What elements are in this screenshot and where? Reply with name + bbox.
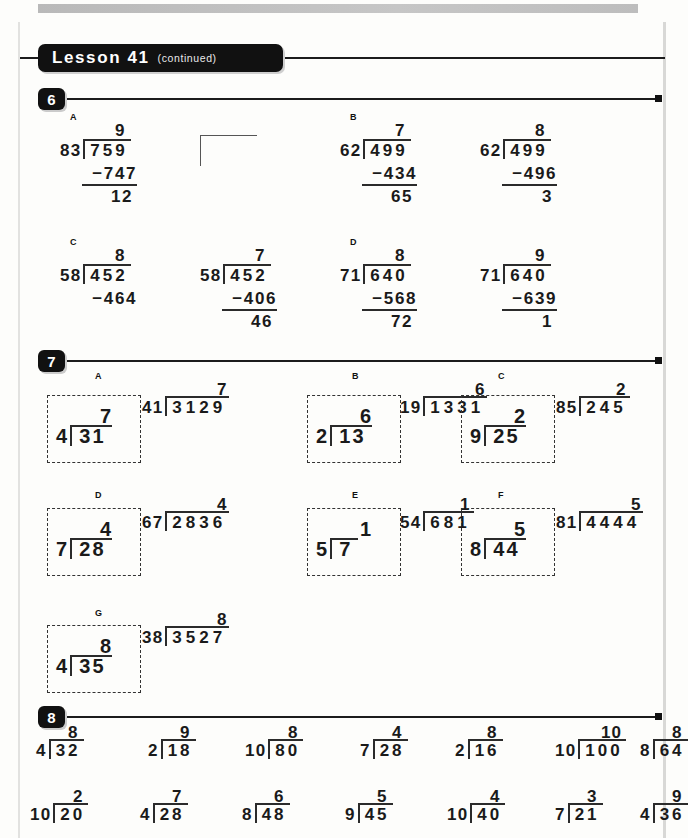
divisor: 10 (245, 741, 268, 760)
dividend: 640 (510, 265, 547, 285)
boxed-division: 8435 (48, 626, 140, 692)
division-row: 728 (360, 741, 408, 761)
dividend: 28 (380, 740, 405, 760)
divisor: 4 (640, 805, 653, 824)
problem-tag: A (70, 112, 77, 122)
quotient-digit: 2 (514, 408, 526, 424)
divisor: 2 (455, 741, 468, 760)
answer-box[interactable]: 5844 (461, 508, 555, 576)
dividend: 7 (339, 537, 352, 560)
dividend: 21 (575, 804, 600, 824)
divisor: 10 (447, 805, 470, 824)
answer-box[interactable]: 6213 (307, 395, 401, 463)
problem-tag: B (352, 371, 359, 381)
division-bracket: 21 (568, 803, 603, 823)
divisor: 7 (555, 805, 568, 824)
division-row: 431 (56, 426, 112, 447)
dividend: 20 (60, 804, 85, 824)
answer-box[interactable]: 4728 (47, 508, 141, 576)
division-bracket: 3129 (165, 396, 229, 416)
dividend: 40 (477, 804, 502, 824)
boxed-division: 157 (308, 509, 400, 575)
division-bracket: 13 (330, 425, 371, 446)
division-bracket: 499 (363, 139, 410, 159)
quotient-digit: 7 (395, 123, 405, 139)
section-number-badge: 7 (38, 350, 65, 372)
dividend: 759 (90, 140, 127, 160)
dividend: 3129 (172, 397, 226, 417)
divisor: 85 (556, 398, 579, 417)
dividend: 13 (339, 424, 365, 447)
answer-box[interactable]: 2925 (461, 395, 555, 463)
quotient-digit: 8 (100, 638, 112, 654)
division-row: 213 (316, 426, 372, 447)
quotient-digit: 5 (514, 521, 526, 537)
division-row: 57 (316, 539, 358, 560)
problem-tag: A (95, 371, 102, 381)
division-bracket: 759 (83, 139, 130, 159)
quotient-digit: 4 (100, 521, 112, 537)
remainder: 46 (222, 312, 273, 332)
subtrahend: −568 (362, 289, 417, 311)
division-row: 71640 (340, 266, 411, 286)
divisor: 4 (36, 741, 49, 760)
dividend: 25 (493, 424, 519, 447)
section-rule-endpoint (655, 713, 662, 720)
division-row: 10100 (555, 741, 626, 761)
divisor: 19 (400, 398, 423, 417)
division-row: 436 (640, 805, 688, 825)
subtrahend: −434 (362, 164, 417, 186)
section-rule (64, 98, 656, 100)
divisor: 8 (242, 805, 255, 824)
section-rule-endpoint (655, 95, 662, 102)
divisor: 83 (60, 141, 83, 160)
division-bracket: 20 (53, 803, 88, 823)
division-row: 848 (242, 805, 290, 825)
division-row: 1020 (30, 805, 88, 825)
quotient-digit: 7 (100, 408, 112, 424)
divisor: 2 (316, 425, 330, 447)
lesson-title: Lesson 41 (52, 48, 150, 68)
division-bracket: 452 (83, 264, 130, 284)
problem-tag: B (350, 112, 357, 122)
divisor: 62 (340, 141, 363, 160)
division-row: 721 (555, 805, 603, 825)
divisor: 7 (56, 538, 70, 560)
divisor: 71 (340, 266, 363, 285)
divisor: 8 (640, 741, 653, 760)
division-bracket: 40 (470, 803, 505, 823)
division-bracket: 452 (223, 264, 270, 284)
empty-division-bracket[interactable] (200, 135, 257, 166)
divisor: 67 (142, 513, 165, 532)
subtrahend: −496 (502, 164, 557, 186)
page-right-edge (663, 22, 666, 838)
lesson-header: Lesson 41 (continued) (38, 44, 283, 72)
answer-box[interactable]: 8435 (47, 625, 141, 693)
dividend: 16 (475, 740, 500, 760)
divisor: 2 (148, 741, 161, 760)
division-row: 85245 (556, 398, 630, 418)
division-row: 945 (345, 805, 393, 825)
divisor: 41 (142, 398, 165, 417)
quotient-digit: 8 (535, 123, 545, 139)
boxed-division: 7431 (48, 396, 140, 462)
dividend: 64 (660, 740, 685, 760)
division-bracket: 45 (358, 803, 393, 823)
divisor: 58 (60, 266, 83, 285)
division-row: 216 (455, 741, 503, 761)
remainder: 65 (362, 187, 413, 207)
answer-box[interactable]: 157 (307, 508, 401, 576)
dividend: 640 (370, 265, 407, 285)
division-row: 58452 (60, 266, 131, 286)
remainder: 3 (502, 187, 553, 207)
dividend: 2836 (172, 512, 226, 532)
division-bracket: 100 (578, 739, 625, 759)
answer-box[interactable]: 7431 (47, 395, 141, 463)
division-bracket: 28 (70, 538, 111, 559)
dividend: 80 (275, 740, 300, 760)
division-row: 925 (470, 426, 526, 447)
dividend: 35 (79, 654, 105, 677)
divisor: 4 (56, 425, 70, 447)
division-bracket: 18 (161, 739, 196, 759)
